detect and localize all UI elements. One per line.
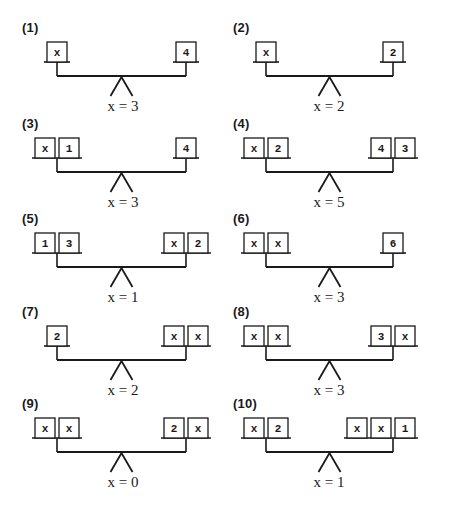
svg-text:1: 1 (66, 143, 73, 155)
number-weight-box: 4 (176, 138, 196, 158)
unknown-weight-box: x (268, 326, 288, 346)
svg-text:x: x (275, 331, 282, 343)
svg-text:x: x (171, 238, 178, 250)
svg-text:x: x (251, 143, 258, 155)
solution-text: x = 3 (108, 194, 139, 211)
unknown-weight-box: x (188, 326, 208, 346)
svg-text:4: 4 (183, 143, 190, 155)
svg-text:x: x (42, 143, 49, 155)
number-weight-box: 3 (395, 138, 415, 158)
number-weight-box: 1 (35, 233, 55, 253)
svg-text:2: 2 (390, 47, 397, 59)
number-weight-box: 2 (268, 138, 288, 158)
number-weight-box: 2 (164, 418, 184, 438)
svg-text:6: 6 (390, 238, 397, 250)
solution-text: x = 3 (108, 98, 139, 115)
svg-text:x: x (251, 238, 258, 250)
svg-text:3: 3 (378, 331, 385, 343)
fulcrum-icon (319, 453, 341, 472)
svg-text:x: x (195, 423, 202, 435)
problem-panel-2: (2) x2 x = 2 (233, 20, 443, 114)
number-weight-box: 2 (188, 233, 208, 253)
svg-text:x: x (275, 238, 282, 250)
problem-panel-6: (6) xx6 x = 3 (233, 211, 443, 305)
svg-text:x: x (42, 423, 49, 435)
svg-text:4: 4 (183, 47, 190, 59)
fulcrum-icon (111, 77, 133, 96)
svg-text:x: x (251, 423, 258, 435)
svg-text:2: 2 (195, 238, 202, 250)
svg-text:2: 2 (54, 331, 61, 343)
number-weight-box: 2 (47, 326, 67, 346)
svg-text:x: x (54, 47, 61, 59)
svg-text:2: 2 (171, 423, 178, 435)
unknown-weight-box: x (244, 418, 264, 438)
unknown-weight-box: x (164, 233, 184, 253)
svg-text:x: x (263, 47, 270, 59)
unknown-weight-box: x (256, 42, 276, 62)
unknown-weight-box: x (164, 326, 184, 346)
problem-panel-7: (7) 2xx x = 2 (22, 304, 232, 398)
number-weight-box: 4 (371, 138, 391, 158)
fulcrum-icon (319, 77, 341, 96)
fulcrum-icon (111, 268, 133, 287)
unknown-weight-box: x (395, 326, 415, 346)
svg-text:1: 1 (402, 423, 409, 435)
number-weight-box: 6 (383, 233, 403, 253)
fulcrum-icon (319, 173, 341, 192)
svg-text:3: 3 (402, 143, 409, 155)
unknown-weight-box: x (47, 42, 67, 62)
fulcrum-icon (111, 361, 133, 380)
fulcrum-icon (319, 268, 341, 287)
unknown-weight-box: x (35, 418, 55, 438)
unknown-weight-box: x (244, 233, 264, 253)
number-weight-box: 3 (371, 326, 391, 346)
svg-text:2: 2 (275, 423, 282, 435)
fulcrum-icon (111, 453, 133, 472)
svg-text:x: x (402, 331, 409, 343)
problem-panel-1: (1) x4 x = 3 (22, 20, 232, 114)
solution-text: x = 1 (314, 474, 345, 491)
problem-panel-4: (4) x243 x = 5 (233, 116, 443, 210)
solution-text: x = 5 (314, 194, 345, 211)
svg-text:4: 4 (378, 143, 385, 155)
number-weight-box: 2 (268, 418, 288, 438)
svg-text:x: x (171, 331, 178, 343)
solution-text: x = 2 (314, 98, 345, 115)
unknown-weight-box: x (244, 326, 264, 346)
unknown-weight-box: x (371, 418, 391, 438)
unknown-weight-box: x (188, 418, 208, 438)
problem-panel-9: (9) xx2x x = 0 (22, 396, 232, 490)
fulcrum-icon (111, 173, 133, 192)
unknown-weight-box: x (244, 138, 264, 158)
problem-panel-3: (3) x14 x = 3 (22, 116, 232, 210)
unknown-weight-box: x (35, 138, 55, 158)
svg-text:2: 2 (275, 143, 282, 155)
fulcrum-icon (319, 361, 341, 380)
number-weight-box: 3 (59, 233, 79, 253)
svg-text:x: x (354, 423, 361, 435)
svg-text:x: x (195, 331, 202, 343)
svg-text:x: x (251, 331, 258, 343)
number-weight-box: 2 (383, 42, 403, 62)
problem-panel-8: (8) xx3x x = 3 (233, 304, 443, 398)
unknown-weight-box: x (59, 418, 79, 438)
svg-text:x: x (66, 423, 73, 435)
number-weight-box: 4 (176, 42, 196, 62)
unknown-weight-box: x (268, 233, 288, 253)
problem-panel-5: (5) 13x2 x = 1 (22, 211, 232, 305)
number-weight-box: 1 (59, 138, 79, 158)
problem-panel-10: (10) x2xx1 x = 1 (233, 396, 443, 490)
unknown-weight-box: x (347, 418, 367, 438)
svg-text:3: 3 (66, 238, 73, 250)
svg-text:x: x (378, 423, 385, 435)
number-weight-box: 1 (395, 418, 415, 438)
solution-text: x = 0 (108, 474, 139, 491)
svg-text:1: 1 (42, 238, 49, 250)
